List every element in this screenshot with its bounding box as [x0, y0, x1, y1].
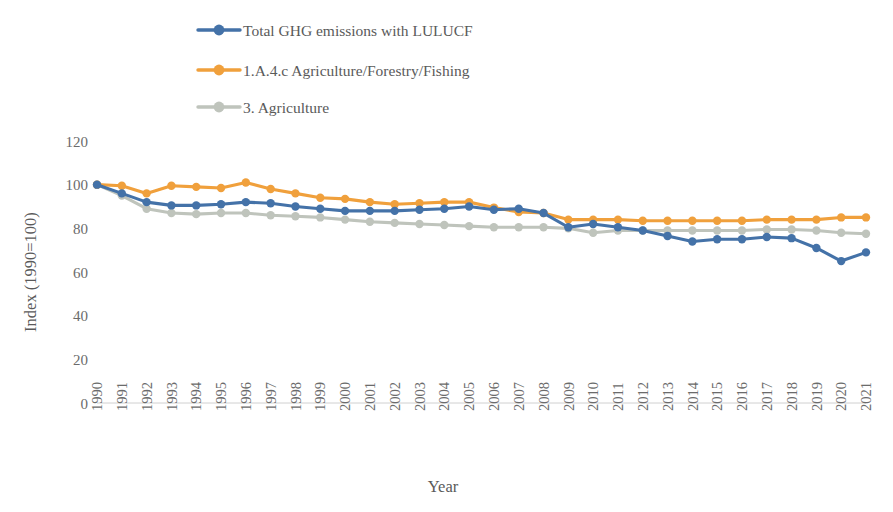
data-point	[738, 216, 746, 224]
data-point	[539, 209, 547, 217]
x-tick-label-28: 2018	[784, 382, 800, 411]
x-axis-title: Year	[428, 477, 459, 496]
data-point	[738, 235, 746, 243]
data-point	[688, 237, 696, 245]
data-point	[812, 226, 820, 234]
data-point	[862, 230, 870, 238]
data-point	[93, 180, 101, 188]
x-tick-label-12: 2002	[387, 382, 403, 411]
x-tick-label-19: 2009	[561, 382, 577, 411]
data-point	[465, 222, 473, 230]
data-point	[738, 226, 746, 234]
data-point	[837, 229, 845, 237]
x-tick-label-22: 2012	[635, 382, 651, 411]
x-tick-label-10: 2000	[337, 382, 353, 411]
x-tick-label-6: 1996	[238, 382, 254, 411]
data-point	[564, 215, 572, 223]
data-point	[639, 216, 647, 224]
x-tick-label-31: 2021	[858, 382, 874, 411]
y-tick-label-2: 40	[73, 308, 88, 324]
y-tick-label-4: 80	[73, 221, 88, 237]
x-axis: 1990199119921993199419951996199719981999…	[89, 381, 874, 411]
x-tick-label-7: 1997	[263, 382, 279, 411]
data-point	[341, 215, 349, 223]
data-point	[465, 202, 473, 210]
y-axis-title: Index (1990=100)	[21, 212, 40, 332]
data-point	[242, 198, 250, 206]
data-point	[242, 209, 250, 217]
legend-marker-2	[214, 102, 225, 113]
data-point	[142, 198, 150, 206]
y-tick-label-6: 120	[66, 134, 89, 150]
data-point	[415, 220, 423, 228]
legend-item-0: Total GHG emissions with LULUCF	[198, 22, 473, 39]
legend-item-2: 3. Agriculture	[198, 99, 329, 116]
y-axis: 020406080100120	[66, 134, 867, 412]
x-tick-label-2: 1992	[139, 382, 155, 411]
x-tick-label-27: 2017	[759, 382, 775, 411]
data-point	[217, 200, 225, 208]
x-tick-label-0: 1990	[89, 382, 105, 411]
data-point	[316, 204, 324, 212]
series-line-0	[97, 185, 866, 261]
x-tick-label-20: 2010	[585, 382, 601, 411]
data-point	[366, 198, 374, 206]
legend-label-1: 1.A.4.c Agriculture/Forestry/Fishing	[243, 62, 470, 79]
data-point	[316, 194, 324, 202]
legend-label-2: 3. Agriculture	[243, 99, 329, 116]
data-series-0	[93, 180, 870, 265]
data-point	[713, 226, 721, 234]
data-point	[564, 223, 572, 231]
x-tick-label-1: 1991	[114, 382, 130, 411]
data-point	[192, 201, 200, 209]
data-point	[291, 189, 299, 197]
legend-item-1: 1.A.4.c Agriculture/Forestry/Fishing	[198, 62, 470, 79]
x-tick-label-15: 2005	[461, 382, 477, 411]
data-point	[390, 207, 398, 215]
data-point	[366, 218, 374, 226]
data-point	[614, 223, 622, 231]
x-tick-label-29: 2019	[809, 382, 825, 411]
x-tick-label-8: 1998	[288, 382, 304, 411]
data-point	[415, 206, 423, 214]
data-point	[688, 216, 696, 224]
x-tick-label-5: 1995	[213, 382, 229, 411]
x-tick-label-25: 2015	[709, 382, 725, 411]
x-tick-label-4: 1994	[188, 381, 204, 411]
legend-label-0: Total GHG emissions with LULUCF	[243, 22, 473, 39]
data-point	[787, 225, 795, 233]
data-point	[862, 213, 870, 221]
x-tick-label-21: 2011	[610, 383, 626, 411]
chart-container: Total GHG emissions with LULUCF1.A.4.c A…	[0, 0, 893, 512]
data-point	[440, 221, 448, 229]
data-point	[291, 212, 299, 220]
data-point	[787, 234, 795, 242]
data-point	[614, 215, 622, 223]
data-point	[118, 182, 126, 190]
data-point	[589, 220, 597, 228]
data-point	[539, 223, 547, 231]
data-point	[167, 201, 175, 209]
data-point	[266, 185, 274, 193]
data-point	[266, 199, 274, 207]
data-point	[515, 204, 523, 212]
data-point	[812, 215, 820, 223]
x-tick-label-30: 2020	[833, 382, 849, 411]
x-tick-label-16: 2006	[486, 382, 502, 411]
data-point	[763, 215, 771, 223]
data-point	[589, 229, 597, 237]
y-tick-label-1: 20	[73, 352, 88, 368]
data-point	[341, 195, 349, 203]
data-point	[663, 232, 671, 240]
x-tick-label-24: 2014	[685, 381, 701, 411]
data-point	[763, 233, 771, 241]
x-tick-label-18: 2008	[536, 382, 552, 411]
data-point	[291, 202, 299, 210]
data-point	[118, 189, 126, 197]
data-point	[192, 183, 200, 191]
x-tick-label-14: 2004	[436, 381, 452, 411]
data-point	[167, 182, 175, 190]
data-point	[366, 207, 374, 215]
y-tick-label-0: 0	[81, 396, 89, 412]
x-tick-label-13: 2003	[412, 382, 428, 411]
